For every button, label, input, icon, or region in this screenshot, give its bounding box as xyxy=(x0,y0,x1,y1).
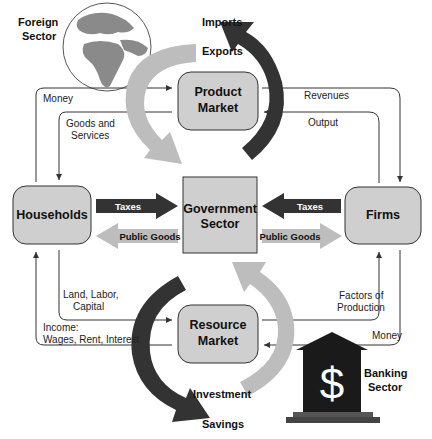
households-box: Households xyxy=(13,186,91,244)
land-labor-capital-label-2: Capital xyxy=(73,301,104,312)
income-label-1: Income: xyxy=(43,322,79,333)
land-labor-capital-label-1: Land, Labor, xyxy=(63,289,119,300)
foreign-sector-label-1: Foreign xyxy=(18,16,59,28)
dollar-icon: $ xyxy=(320,359,344,408)
resource-market-box: Resource Market xyxy=(178,305,258,363)
product-market-box: Product Market xyxy=(178,72,258,130)
imports-label: Imports xyxy=(202,16,242,28)
resource-market-label-1: Resource xyxy=(190,318,247,332)
public-goods-left-label: Public Goods xyxy=(119,231,180,242)
income-label-2: Wages, Rent, Interest xyxy=(43,334,140,345)
savings-label: Savings xyxy=(202,418,244,430)
government-label-1: Government xyxy=(183,202,257,216)
investment-label: Investment xyxy=(193,388,251,400)
money-top-label: Money xyxy=(43,93,73,104)
taxes-right-arrow: Taxes xyxy=(262,193,341,219)
government-box: Government Sector xyxy=(183,177,258,253)
government-label-2: Sector xyxy=(201,217,240,231)
revenues-label: Revenues xyxy=(304,90,349,101)
foreign-sector-label-2: Sector xyxy=(22,30,57,42)
firms-box: Firms xyxy=(345,187,421,244)
banking-sector-label-1: Banking xyxy=(364,367,407,379)
public-goods-right-arrow: Public Goods xyxy=(259,223,342,249)
taxes-left-label: Taxes xyxy=(115,201,141,212)
goods-services-label-1: Goods and xyxy=(66,118,115,129)
public-goods-left-arrow: Public Goods xyxy=(96,223,181,249)
product-market-label-2: Market xyxy=(198,101,239,115)
output-label: Output xyxy=(308,117,338,128)
resource-market-label-2: Market xyxy=(198,334,239,348)
households-label: Households xyxy=(16,208,88,222)
product-market-label-1: Product xyxy=(194,85,242,99)
factors-label-2: Production xyxy=(337,302,385,313)
taxes-right-label: Taxes xyxy=(297,201,323,212)
exports-label: Exports xyxy=(202,45,243,57)
circular-flow-diagram: Foreign Sector Product Market xyxy=(0,0,432,439)
goods-services-label-2: Services xyxy=(71,130,109,141)
banking-sector-label-2: Sector xyxy=(368,381,403,393)
factors-label-1: Factors of xyxy=(339,290,384,301)
money-bottom-label: Money xyxy=(372,330,402,341)
public-goods-right-label: Public Goods xyxy=(259,231,320,242)
firms-label: Firms xyxy=(366,208,400,222)
taxes-left-arrow: Taxes xyxy=(96,193,178,219)
